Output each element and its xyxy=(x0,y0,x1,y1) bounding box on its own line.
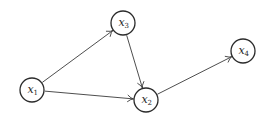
edge-x2-to-x4 xyxy=(157,56,231,94)
nodes-layer: x1x3x2x4 xyxy=(20,11,255,112)
node-subscript: 1 xyxy=(34,89,38,97)
node-x1: x1 xyxy=(20,78,44,102)
directed-graph-diagram: x1x3x2x4 xyxy=(0,0,269,125)
edges-layer xyxy=(42,31,231,102)
edge-x3-to-x2 xyxy=(127,35,144,87)
node-x4: x4 xyxy=(231,39,255,63)
edge-line xyxy=(45,91,133,99)
node-x2: x2 xyxy=(134,88,158,112)
node-x3: x3 xyxy=(111,11,135,35)
node-subscript: 3 xyxy=(125,22,129,30)
node-subscript: 4 xyxy=(245,50,250,58)
edge-x1-to-x3 xyxy=(42,31,112,83)
edge-line xyxy=(127,35,143,87)
arrowhead-icon xyxy=(106,31,112,37)
edge-line xyxy=(42,31,112,83)
edge-x1-to-x2 xyxy=(45,91,133,101)
node-subscript: 2 xyxy=(148,99,152,107)
edge-line xyxy=(157,57,231,94)
